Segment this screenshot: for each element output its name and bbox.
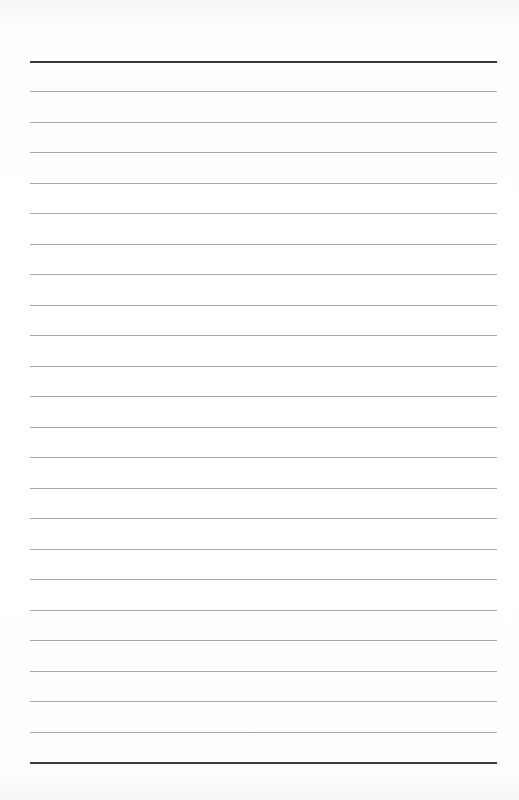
ruled-line xyxy=(30,244,497,245)
ruled-line xyxy=(30,518,497,519)
ruled-line xyxy=(30,396,497,397)
lined-paper-page xyxy=(0,0,519,800)
ruled-line xyxy=(30,427,497,428)
ruled-line xyxy=(30,488,497,489)
ruled-line xyxy=(30,91,497,92)
ruled-line xyxy=(30,732,497,733)
ruled-line xyxy=(30,152,497,153)
bottom-rule xyxy=(30,762,497,764)
ruled-line xyxy=(30,579,497,580)
ruled-line xyxy=(30,366,497,367)
top-rule xyxy=(30,61,497,63)
ruled-line xyxy=(30,305,497,306)
ruled-line xyxy=(30,610,497,611)
ruled-line xyxy=(30,701,497,702)
ruled-line xyxy=(30,213,497,214)
ruled-line xyxy=(30,549,497,550)
ruled-line xyxy=(30,671,497,672)
ruled-line xyxy=(30,640,497,641)
ruled-line xyxy=(30,274,497,275)
ruled-line xyxy=(30,122,497,123)
ruled-line xyxy=(30,335,497,336)
ruled-line xyxy=(30,457,497,458)
ruled-line xyxy=(30,183,497,184)
